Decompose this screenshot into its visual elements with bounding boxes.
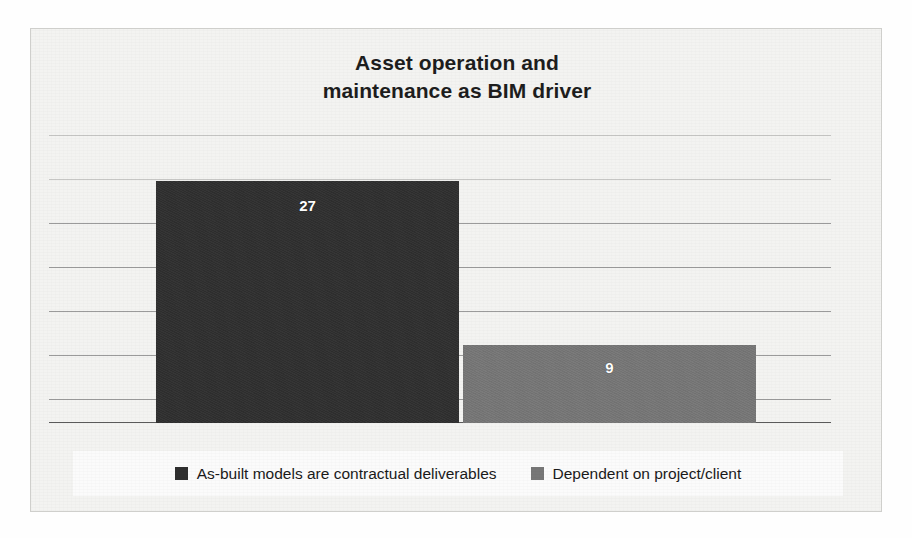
chart-title-line-2: maintenance as BIM driver <box>31 77 882 105</box>
chart-legend: As-built models are contractual delivera… <box>73 451 843 496</box>
bar-value-label-2: 9 <box>463 359 756 376</box>
chart-figure-panel: Asset operation and maintenance as BIM d… <box>30 28 882 512</box>
legend-item-dependent-on-project-client[interactable]: Dependent on project/client <box>531 465 742 483</box>
legend-label-as-built-models: As-built models are contractual delivera… <box>197 465 497 483</box>
legend-swatch-icon-dark <box>175 467 188 480</box>
bar-dependent-on-project-client[interactable]: 9 <box>463 345 756 423</box>
chart-title: Asset operation and maintenance as BIM d… <box>31 49 882 104</box>
legend-swatch-icon-gray <box>531 467 544 480</box>
legend-item-as-built-models[interactable]: As-built models are contractual delivera… <box>175 465 497 483</box>
chart-title-line-1: Asset operation and <box>31 49 882 77</box>
legend-label-dependent-on-project-client: Dependent on project/client <box>553 465 742 483</box>
bar-fill-dark <box>156 181 459 423</box>
bar-value-label-1: 27 <box>156 197 459 214</box>
bar-as-built-models[interactable]: 27 <box>156 181 459 423</box>
scanned-figure-page: Asset operation and maintenance as BIM d… <box>0 0 912 538</box>
bar-fill-gray <box>463 345 756 423</box>
bars-layer: 27 9 <box>49 135 831 423</box>
